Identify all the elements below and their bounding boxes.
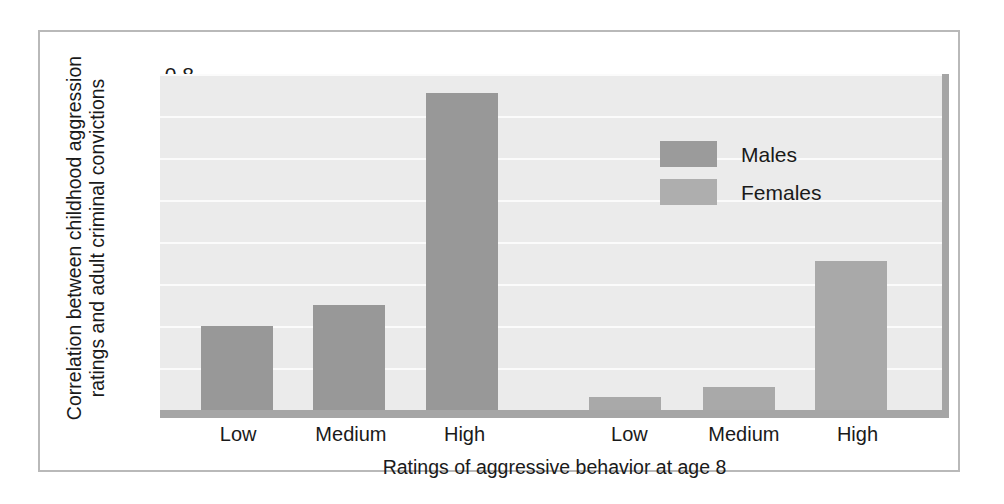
- y-axis-title-line-1: Correlation between childhood aggression: [63, 56, 86, 420]
- x-axis-tick-females-low: Low: [611, 424, 648, 444]
- legend-label-males: Males: [741, 144, 797, 165]
- figure-frame: Correlation between childhood aggression…: [38, 30, 960, 472]
- bar-males-high: [426, 93, 498, 410]
- bar-males-low: [201, 326, 273, 410]
- legend-item-females: Females: [660, 174, 880, 210]
- bar-females-low: [589, 397, 661, 410]
- x-axis-title: Ratings of aggressive behavior at age 8: [160, 456, 949, 479]
- bar-females-high: [815, 261, 887, 410]
- legend-item-males: Males: [660, 136, 880, 172]
- y-axis-title: Correlation between childhood aggression…: [40, 63, 132, 413]
- x-axis-tick-males-high: High: [444, 424, 485, 444]
- x-axis-tick-males-low: Low: [220, 424, 257, 444]
- legend-label-females: Females: [741, 182, 822, 203]
- x-axis-tick-females-medium: Medium: [708, 424, 779, 444]
- y-axis-title-line-2: ratings and adult criminal convictions: [86, 79, 109, 398]
- bars-layer: [160, 74, 942, 410]
- legend-swatch-females-icon: [660, 179, 717, 205]
- bar-males-medium: [313, 305, 385, 410]
- x-axis-tick-males-medium: Medium: [315, 424, 386, 444]
- plot-area: Males Females: [160, 74, 949, 418]
- x-axis-tick-females-high: High: [837, 424, 878, 444]
- x-axis-tick-labels: LowMediumHighLowMediumHigh: [160, 424, 949, 454]
- chart-legend: Males Females: [660, 136, 880, 212]
- bar-females-medium: [703, 387, 775, 410]
- legend-swatch-males-icon: [660, 141, 717, 167]
